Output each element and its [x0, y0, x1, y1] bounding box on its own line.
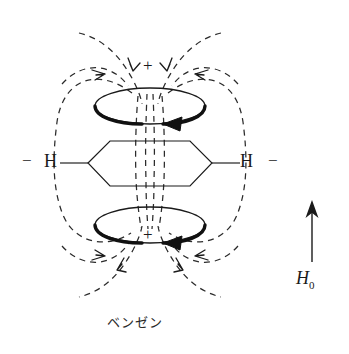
- arrowhead-lr: [174, 258, 183, 272]
- external-field-arrow: [307, 202, 317, 262]
- arrowhead-ur: [160, 58, 172, 71]
- benzene-ring: [60, 141, 240, 186]
- arrowhead-right-hook: [195, 70, 208, 80]
- ring-current-top: [95, 88, 205, 131]
- figure-page: + + − H H − H0 ベンゼン: [0, 0, 349, 354]
- arrowhead-right-hook-lower: [195, 250, 208, 260]
- external-field-subscript: 0: [309, 279, 315, 291]
- shielding-minus-right: −: [268, 151, 278, 171]
- field-line-lower-right: [158, 226, 221, 297]
- field-line-core-1: [136, 96, 141, 228]
- ring-current-top-arrowhead: [163, 117, 182, 131]
- field-line-core-3: [152, 94, 154, 229]
- field-loop-right-outer: [168, 79, 246, 242]
- figure-caption: ベンゼン: [0, 312, 270, 331]
- deshielding-plus-top: +: [143, 56, 153, 76]
- arrowhead-ll: [117, 258, 126, 272]
- external-field-symbol: H: [296, 268, 309, 288]
- deshielding-plus-bottom: +: [143, 225, 153, 245]
- hexagon-outline: [88, 141, 212, 186]
- field-line-lower-left: [79, 226, 142, 297]
- arrowhead-left-hook-lower: [92, 250, 105, 260]
- benzene-ring-current-diagram: [0, 0, 349, 354]
- external-field-label: H0: [296, 268, 315, 291]
- arrowhead-ul: [128, 58, 140, 71]
- shielding-minus-left: −: [22, 151, 32, 171]
- field-line-core-4: [159, 96, 164, 228]
- hydrogen-label-left: H: [44, 151, 57, 172]
- hydrogen-label-right: H: [240, 151, 253, 172]
- field-line-core-2: [146, 94, 148, 229]
- ring-current-top-thick-arc: [95, 106, 142, 124]
- ring-current-bottom-thick-arc: [95, 225, 142, 243]
- field-loop-left-outer: [54, 79, 132, 242]
- arrowhead-left-hook: [92, 70, 105, 80]
